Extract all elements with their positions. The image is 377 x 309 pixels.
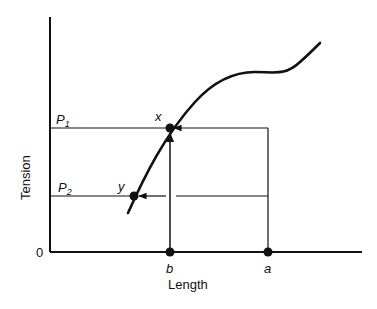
point-b [166, 248, 175, 257]
point-x [166, 124, 175, 133]
p2-label: P2 [58, 180, 72, 197]
tension-length-diagram: 0 P1 P2 x y b a Length Tension [0, 0, 377, 309]
point-a [264, 248, 273, 257]
origin-label: 0 [36, 245, 43, 260]
x-axis-label: Length [168, 277, 208, 292]
b-label: b [166, 261, 173, 276]
point-y [130, 192, 139, 201]
a-label: a [264, 261, 271, 276]
point-y-label: y [117, 179, 126, 194]
p1-label: P1 [56, 112, 70, 129]
point-x-label: x [154, 109, 162, 124]
y-axis-label: Tension [18, 155, 33, 200]
